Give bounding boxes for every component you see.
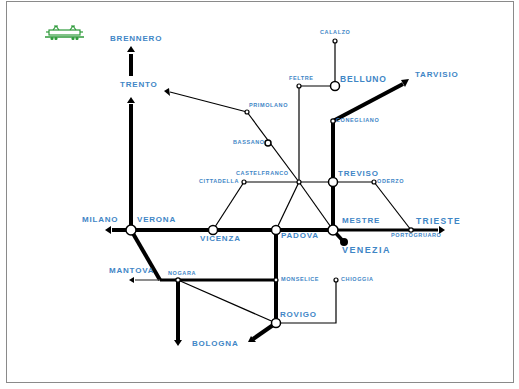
line-cittadella-vicenza (213, 182, 244, 230)
station-belluno (331, 82, 340, 91)
label-feltre: FELTRE (289, 76, 314, 82)
label-milano: MILANO (82, 216, 118, 224)
label-chioggia: CHIOGGIA (341, 277, 374, 283)
label-bologna: BOLOGNA (192, 340, 239, 348)
label-venezia: VENEZIA (342, 246, 391, 255)
station-monselice (274, 278, 278, 282)
label-verona: VERONA (137, 216, 176, 224)
station-feltre (297, 84, 301, 88)
line-castelfranco-mestre (299, 182, 333, 230)
label-oderzo: ODERZO (377, 179, 404, 185)
label-calalzo: CALALZO (320, 30, 350, 36)
electric-locomotive-icon (45, 26, 84, 40)
label-castelfranco: CASTELFRANCO (236, 171, 289, 177)
arrow-trento-icon (127, 97, 135, 103)
station-rovigo (272, 319, 281, 328)
label-treviso: TREVISO (338, 170, 379, 178)
label-belluno: BELLUNO (340, 75, 387, 84)
arrow-milano-icon (105, 226, 111, 234)
label-monselice: MONSELICE (281, 277, 319, 283)
station-bassano (265, 140, 271, 146)
label-primolano: PRIMOLANO (249, 103, 288, 109)
station-primolano (245, 110, 249, 114)
station-calalzo (333, 39, 337, 43)
station-nogara (176, 278, 180, 282)
label-nogara: NOGARA (168, 271, 196, 277)
line-conegliano-tarvisio (333, 84, 403, 121)
station-conegliano (331, 119, 335, 123)
label-tarvisio: TARVISIO (415, 71, 458, 79)
line-castelfranco-padova (276, 182, 299, 230)
label-rovigo: ROVIGO (280, 311, 317, 319)
station-chioggia (334, 278, 338, 282)
station-oderzo (372, 180, 376, 184)
line-nogara-rovigo (178, 280, 276, 323)
station-treviso (329, 178, 338, 187)
station-cittadella (242, 180, 246, 184)
label-portogruaro: PORTOGRUARO (391, 233, 442, 239)
arrow-brennero-icon (127, 46, 135, 52)
line-primolano-trento (170, 92, 247, 112)
label-brennero: BRENNERO (110, 35, 162, 43)
station-mestre (328, 225, 338, 235)
label-trieste: TRIESTE (416, 217, 461, 226)
label-mantova: MANTOVA (109, 267, 154, 275)
station-padova (272, 226, 281, 235)
label-padova: PADOVA (281, 232, 319, 240)
label-vicenza: VICENZA (200, 235, 241, 243)
label-mestre: MESTRE (342, 217, 380, 225)
label-conegliano: CONEGLIANO (336, 118, 379, 124)
rail-network-map (0, 0, 519, 389)
station-verona (126, 225, 136, 235)
arrow-nogara-bologna-icon (174, 340, 182, 346)
label-trento: TRENTO (120, 81, 158, 89)
arrow-mantova-icon (129, 277, 134, 283)
label-cittadella: CITTADELLA (199, 179, 239, 185)
label-bassano: BASSANO (233, 140, 265, 146)
station-castelfranco (297, 180, 301, 184)
arrow-primolano-trento-icon (164, 88, 170, 96)
